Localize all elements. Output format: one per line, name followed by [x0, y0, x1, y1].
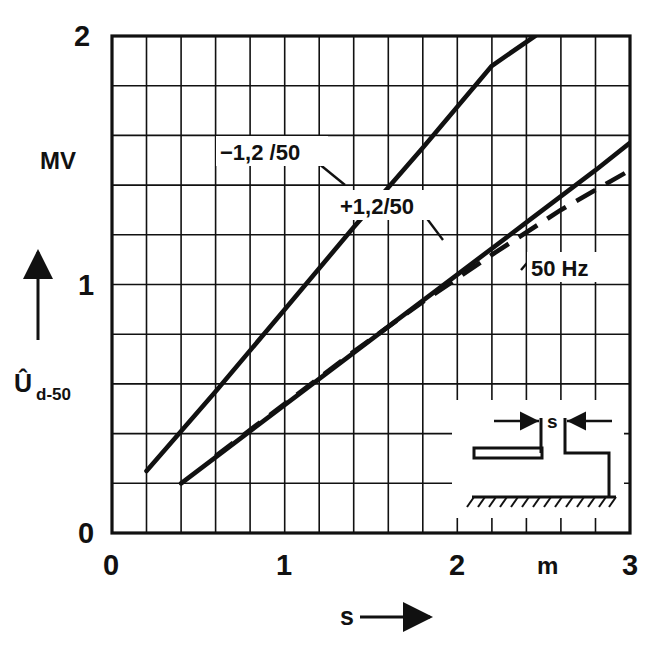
y-tick-0: 0 [78, 517, 94, 549]
curve-label-neg: −1,2 /50 [220, 140, 300, 165]
inset-electrode-gap-geometry: s [452, 400, 624, 518]
x-axis-symbol: s [340, 602, 354, 630]
y-tick-1: 1 [78, 269, 94, 301]
x-tick-1: 1 [276, 549, 292, 581]
y-axis-symbol: Û [14, 368, 32, 397]
inset-gap-label: s [547, 411, 558, 432]
curve-label-pos: +1,2/50 [340, 194, 414, 219]
x-tick-3: 3 [622, 549, 638, 581]
chart-figure: −1,2 /50 +1,2/50 50 Hz 2 1 0 MV Û d-50 0… [0, 0, 656, 646]
x-tick-2: 2 [449, 549, 465, 581]
y-axis-subscript: d-50 [36, 385, 71, 404]
y-tick-2: 2 [74, 20, 90, 52]
chart-svg: −1,2 /50 +1,2/50 50 Hz 2 1 0 MV Û d-50 0… [0, 0, 656, 646]
x-tick-0: 0 [103, 549, 119, 581]
x-axis-unit: m [537, 552, 558, 579]
y-axis-unit: MV [40, 147, 76, 174]
figure-background [0, 0, 656, 646]
curve-label-50hz: 50 Hz [531, 256, 588, 281]
